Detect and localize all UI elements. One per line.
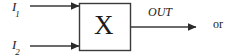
input-label-i1: I1 <box>12 0 21 17</box>
process-block-label: X <box>94 12 114 39</box>
block-diagram-figure: I1 I2 X OUT or <box>0 0 239 56</box>
input-label-i2-subscript: 2 <box>15 47 20 56</box>
diagram-canvas <box>0 0 239 56</box>
output-label: OUT <box>148 6 172 18</box>
input-label-i2: I2 <box>12 38 21 55</box>
input-label-i1-subscript: 1 <box>15 9 20 19</box>
trailing-text-or: or <box>213 18 223 30</box>
